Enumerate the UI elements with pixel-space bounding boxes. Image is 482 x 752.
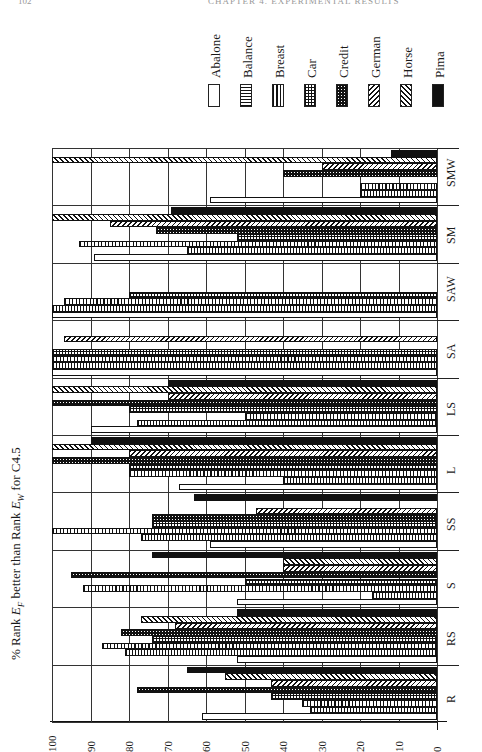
bar-r-german	[271, 680, 437, 687]
bar-r-abalone	[202, 713, 437, 720]
bar-ss-car	[152, 521, 437, 528]
bar-saw-breast	[64, 298, 437, 305]
value-tick-30: 30	[316, 728, 328, 752]
category-separator	[52, 665, 437, 666]
legend-label: Horse	[400, 8, 414, 78]
bar-rs-german	[175, 623, 437, 630]
legend-swatch-car	[304, 84, 316, 107]
category-tick	[437, 492, 459, 493]
category-tick	[437, 550, 459, 551]
bar-rs-credit	[121, 629, 437, 636]
bar-s-pima	[152, 552, 437, 559]
bar-l-german	[129, 450, 437, 457]
bar-s-credit	[71, 572, 437, 579]
bar-ss-credit	[152, 514, 437, 521]
legend-label: Breast	[272, 8, 286, 78]
bar-smw-german	[322, 163, 438, 170]
category-separator	[52, 435, 437, 436]
legend-label: Balance	[240, 8, 254, 78]
bar-sm-credit	[156, 227, 437, 234]
title-ef: E	[8, 607, 23, 615]
legend-label: Credit	[336, 8, 350, 78]
bar-s-breast	[83, 585, 437, 592]
bar-l-credit	[52, 457, 437, 464]
plot-area	[52, 148, 437, 722]
legend-item-pima: Pima	[429, 28, 459, 108]
category-separator	[52, 722, 437, 723]
category-separator	[52, 607, 437, 608]
running-head: CHAPTER 4. EXPERIMENTAL RESULTS	[208, 0, 400, 6]
legend-swatch-breast	[272, 84, 284, 107]
legend-label: Pima	[432, 8, 446, 78]
bar-ls-horse	[52, 386, 437, 393]
bar-ls-german	[168, 393, 438, 400]
category-tick	[437, 435, 459, 436]
bar-r-balance	[310, 707, 437, 714]
bar-s-horse	[283, 558, 437, 565]
bar-ls-pima	[168, 380, 438, 387]
category-separator	[52, 378, 437, 379]
legend-item-car: Car	[301, 28, 331, 108]
value-tick-90: 90	[85, 728, 97, 752]
legend-swatch-balance	[240, 84, 252, 107]
category-separator	[52, 205, 437, 206]
legend-swatch-credit	[336, 84, 348, 107]
value-tick-0: 0	[431, 728, 443, 752]
bar-r-horse	[225, 673, 437, 680]
category-tick	[437, 378, 459, 379]
bar-sm-german	[110, 221, 437, 228]
legend-label: Car	[304, 8, 318, 78]
legend-item-balance: Balance	[237, 28, 267, 108]
bar-r-pima	[187, 667, 437, 674]
bar-rs-pima	[237, 609, 437, 616]
legend-swatch-abalone	[208, 84, 220, 107]
bar-rs-abalone	[237, 656, 437, 663]
category-separator	[52, 492, 437, 493]
bar-sa-balance	[52, 362, 437, 369]
bar-ss-breast	[52, 528, 437, 535]
chart-title: % Rank EF better than Rank EW for C4.5	[8, 370, 24, 660]
bar-sm-pima	[171, 207, 437, 214]
legend-item-abalone: Abalone	[205, 28, 235, 108]
category-tick	[437, 320, 459, 321]
bar-smw-credit	[283, 170, 437, 177]
category-tick	[437, 148, 459, 149]
page-header: 102 CHAPTER 4. EXPERIMENTAL RESULTS	[0, 0, 482, 8]
bar-ls-credit	[52, 400, 437, 407]
legend-item-credit: Credit	[333, 28, 363, 108]
bar-saw-car	[129, 292, 437, 299]
bar-sm-horse	[52, 214, 437, 221]
title-ef-sub: F	[16, 602, 26, 608]
bar-ss-abalone	[210, 541, 437, 548]
bar-ls-balance	[137, 420, 437, 427]
legend-item-breast: Breast	[269, 28, 299, 108]
bar-rs-car	[152, 636, 437, 643]
bar-l-abalone	[179, 484, 437, 491]
bar-ss-balance	[141, 534, 437, 541]
bar-sm-balance	[187, 247, 437, 254]
bar-smw-pima	[391, 150, 437, 157]
bar-smw-balance	[360, 190, 437, 197]
bar-saw-abalone	[52, 312, 437, 319]
bar-smw-abalone	[210, 197, 437, 204]
value-tick-100: 100	[46, 728, 58, 752]
bar-r-credit	[137, 687, 437, 694]
bar-ls-car	[129, 406, 437, 413]
category-separator	[52, 148, 437, 149]
bar-ls-breast	[245, 413, 438, 420]
page-number: 102	[18, 0, 32, 6]
bar-r-breast	[302, 700, 437, 707]
bar-sa-german	[64, 336, 437, 343]
value-tick-50: 50	[239, 728, 251, 752]
legend-label: Abalone	[208, 8, 222, 78]
category-separator	[52, 550, 437, 551]
bar-s-abalone	[237, 599, 437, 606]
bar-s-car	[245, 579, 438, 586]
title-suffix: for C4.5	[8, 447, 23, 494]
legend-item-german: German	[365, 28, 395, 108]
title-middle: better than Rank	[8, 509, 23, 601]
category-separator	[52, 320, 437, 321]
bar-sa-breast	[52, 356, 437, 363]
bar-rs-horse	[141, 616, 437, 623]
legend-swatch-pima	[432, 84, 444, 107]
